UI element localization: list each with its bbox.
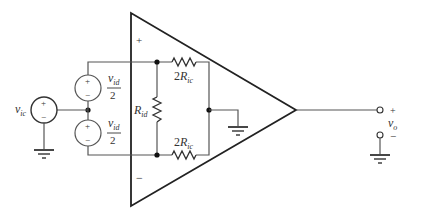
opamp-plus-label: + xyxy=(136,34,142,46)
vic-minus: − xyxy=(41,112,46,122)
vid-bottom-denominator: 2 xyxy=(110,134,116,146)
vid-top-sub: id xyxy=(113,78,120,87)
resistor-top-sub: ic xyxy=(187,76,193,85)
top-input-wire xyxy=(88,62,209,110)
svg-text:vic: vic xyxy=(15,102,27,118)
node-bottom xyxy=(154,152,159,157)
vid-top-denominator: 2 xyxy=(110,89,116,101)
node-top xyxy=(154,59,159,64)
output-terminal-plus-node xyxy=(377,107,383,113)
svg-text:vid: vid xyxy=(108,71,121,87)
resistor-2ric-bottom: 2Ric xyxy=(172,135,196,159)
vic-plus: + xyxy=(41,98,46,108)
vid-bottom-plus: + xyxy=(85,121,90,131)
ground-icon-center xyxy=(209,110,248,135)
vid-bottom-minus: − xyxy=(85,135,90,145)
voltage-source-vid-bottom: + − vid 2 xyxy=(75,116,121,146)
ground-icon-output xyxy=(370,155,390,163)
vid-top-plus: + xyxy=(85,76,90,86)
resistor-2ric-top: 2Ric xyxy=(172,58,196,85)
voltage-source-vid-top: + − vid 2 xyxy=(75,71,121,120)
opamp-minus-label: − xyxy=(136,171,143,185)
svg-text:Rid: Rid xyxy=(133,103,149,119)
rid-sub: id xyxy=(141,110,148,119)
svg-text:2Ric: 2Ric xyxy=(174,69,194,85)
output-terminal: + − vo xyxy=(296,105,397,154)
output-plus: + xyxy=(390,105,396,116)
svg-text:vo: vo xyxy=(388,116,397,132)
ground-icon-vic xyxy=(34,150,54,158)
vid-bottom-sub: id xyxy=(113,123,120,132)
op-amp-circuit-diagram: + − 2Ric 2Ric Rid xyxy=(0,0,422,219)
output-sub: o xyxy=(393,123,397,132)
vid-top-minus: − xyxy=(85,90,90,100)
voltage-source-vic: + − vic xyxy=(15,97,88,149)
svg-text:2Ric: 2Ric xyxy=(174,135,194,151)
output-terminal-minus-node xyxy=(377,132,383,138)
svg-text:vid: vid xyxy=(108,116,121,132)
vic-sub: ic xyxy=(20,109,26,118)
resistor-rid: Rid xyxy=(133,62,161,155)
resistor-bottom-sub: ic xyxy=(187,142,193,151)
